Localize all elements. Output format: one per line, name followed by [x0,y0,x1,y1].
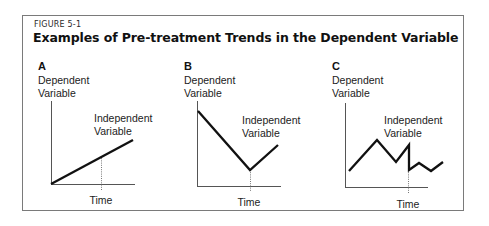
x-axis-label: Time [238,196,261,208]
annotation-line1: Independent [94,112,152,124]
trend-line [51,140,133,184]
y-axis-label-line1: Dependent [184,74,235,86]
annotation-line1: Independent [384,114,442,126]
x-axis-label: Time [90,194,113,206]
x-axis-label: Time [397,198,420,210]
y-axis-label-line1: Dependent [332,74,383,86]
panel-letter: A [38,60,46,72]
panel-letter: C [332,60,340,72]
panel-c: C Dependent Variable Independent Variabl… [332,60,443,210]
trend-line [349,140,443,171]
y-axis-label-line2: Variable [332,87,370,99]
annotation-line2: Variable [384,127,422,139]
panel-b: B Dependent Variable Independent Variabl… [184,60,300,208]
charts-canvas: A Dependent Variable Independent Variabl… [0,0,489,226]
annotation-line1: Independent [242,114,300,126]
panel-a: A Dependent Variable Independent Variabl… [38,60,152,206]
y-axis-label-line2: Variable [38,87,76,99]
annotation-line2: Variable [94,125,132,137]
annotation-line2: Variable [242,127,280,139]
panel-letter: B [184,60,192,72]
y-axis-label-line1: Dependent [38,74,89,86]
y-axis-label-line2: Variable [184,87,222,99]
